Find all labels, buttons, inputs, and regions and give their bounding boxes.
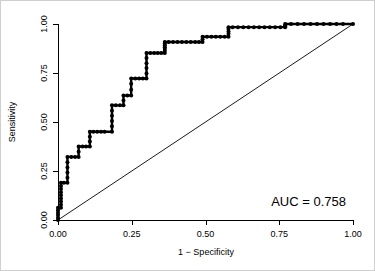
roc-data-point xyxy=(88,145,92,149)
roc-data-point xyxy=(289,22,293,26)
roc-data-point xyxy=(125,94,129,98)
roc-data-point xyxy=(129,94,133,98)
roc-data-point xyxy=(145,56,149,60)
roc-data-point xyxy=(118,103,122,107)
roc-data-point xyxy=(197,40,201,44)
x-tick-label: 0.50 xyxy=(197,229,215,239)
roc-data-point xyxy=(114,103,118,107)
roc-data-point xyxy=(77,150,81,154)
roc-data-point xyxy=(77,155,81,159)
roc-data-point xyxy=(247,25,251,29)
roc-data-point xyxy=(88,140,92,144)
roc-data-point xyxy=(328,22,332,26)
y-tick-label: 0.50 xyxy=(39,113,49,131)
roc-data-point xyxy=(69,155,73,159)
roc-data-point xyxy=(334,22,338,26)
roc-data-point xyxy=(145,51,149,55)
roc-data-point xyxy=(121,98,125,102)
roc-data-point xyxy=(180,40,184,44)
y-tick-label: 0.00 xyxy=(39,211,49,229)
roc-data-point xyxy=(227,25,231,29)
roc-data-point xyxy=(193,40,197,44)
roc-data-point xyxy=(278,25,282,29)
roc-data-point xyxy=(241,25,245,29)
roc-data-point xyxy=(163,40,167,44)
roc-plot-canvas: 0.000.250.500.751.00 0.000.250.500.751.0… xyxy=(1,1,375,271)
x-tick-label: 0.25 xyxy=(123,229,141,239)
roc-data-point xyxy=(88,135,92,139)
roc-data-point xyxy=(201,35,205,39)
roc-data-point xyxy=(65,155,69,159)
roc-data-point xyxy=(171,40,175,44)
roc-data-point xyxy=(77,145,81,149)
roc-data-point xyxy=(223,35,227,39)
roc-data-point xyxy=(110,114,114,118)
roc-data-point xyxy=(252,25,256,29)
roc-data-point xyxy=(218,35,222,39)
roc-data-point xyxy=(145,61,149,65)
auc-annotation-label: AUC = 0.758 xyxy=(271,194,346,209)
roc-data-point xyxy=(121,103,125,107)
roc-data-point xyxy=(129,82,133,86)
roc-data-point xyxy=(103,130,107,134)
x-tick-label: 0.75 xyxy=(270,229,288,239)
roc-data-point xyxy=(99,130,103,134)
y-tick-label: 0.75 xyxy=(39,64,49,82)
roc-data-point xyxy=(315,22,319,26)
roc-data-point xyxy=(133,76,137,80)
roc-data-point xyxy=(84,145,88,149)
roc-data-point xyxy=(231,25,235,29)
roc-data-point xyxy=(129,76,133,80)
roc-data-point xyxy=(62,181,66,185)
roc-data-point xyxy=(189,40,193,44)
y-tick-label: 0.25 xyxy=(39,162,49,180)
roc-data-point xyxy=(110,130,114,134)
roc-data-point xyxy=(322,22,326,26)
roc-data-point xyxy=(341,22,345,26)
y-tick-label: 1.00 xyxy=(39,15,49,33)
roc-data-point xyxy=(167,40,171,44)
roc-data-point xyxy=(141,76,145,80)
roc-data-point xyxy=(209,35,213,39)
roc-data-point xyxy=(129,88,133,92)
roc-data-point xyxy=(175,40,179,44)
roc-data-point xyxy=(351,22,355,26)
roc-data-point xyxy=(145,76,149,80)
roc-data-point xyxy=(302,22,306,26)
roc-data-point xyxy=(296,22,300,26)
roc-data-point xyxy=(65,160,69,164)
roc-data-point xyxy=(95,130,99,134)
roc-data-point xyxy=(110,124,114,128)
roc-data-point xyxy=(283,22,287,26)
roc-data-point xyxy=(65,176,69,180)
x-tick-label: 1.00 xyxy=(344,229,362,239)
roc-data-point xyxy=(152,51,156,55)
roc-data-point xyxy=(148,51,152,55)
roc-data-point xyxy=(121,94,125,98)
roc-data-point xyxy=(145,66,149,70)
roc-data-point xyxy=(65,181,69,185)
roc-data-point xyxy=(88,130,92,134)
roc-data-point xyxy=(137,76,141,80)
roc-data-point xyxy=(73,155,77,159)
roc-data-point xyxy=(110,109,114,113)
roc-data-point xyxy=(91,130,95,134)
roc-data-point xyxy=(263,25,267,29)
x-axis-title: 1 − Specificity xyxy=(178,247,234,257)
roc-data-point xyxy=(205,35,209,39)
roc-data-point xyxy=(110,119,114,123)
roc-data-point xyxy=(214,35,218,39)
roc-data-point xyxy=(65,165,69,169)
roc-data-point xyxy=(184,40,188,44)
roc-data-point xyxy=(145,71,149,75)
roc-data-point xyxy=(236,25,240,29)
roc-data-point xyxy=(273,25,277,29)
roc-curve-figure: 0.000.250.500.751.00 0.000.250.500.751.0… xyxy=(0,0,375,271)
roc-data-point xyxy=(156,51,160,55)
roc-data-point xyxy=(65,171,69,175)
x-tick-label: 0.00 xyxy=(49,229,67,239)
y-axis-title: Sensitivity xyxy=(7,101,17,142)
roc-data-point xyxy=(159,51,163,55)
roc-data-point xyxy=(110,103,114,107)
roc-data-point xyxy=(268,25,272,29)
